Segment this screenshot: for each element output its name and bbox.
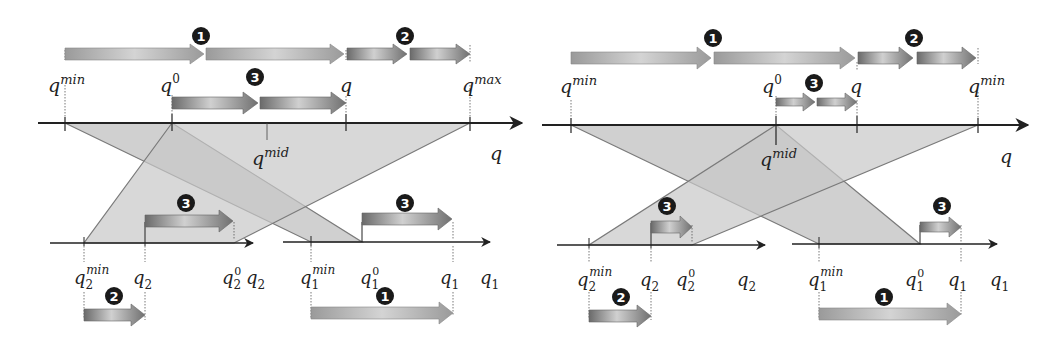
step-marker-3: 3	[246, 68, 264, 86]
svg-text:q1: q1	[990, 269, 1009, 294]
svg-text:q2: q2	[640, 269, 659, 294]
svg-text:3: 3	[250, 70, 259, 85]
svg-text:2: 2	[109, 289, 118, 304]
svg-text:1: 1	[879, 290, 888, 305]
svg-text:1: 1	[708, 31, 717, 46]
svg-text:q: q	[850, 75, 862, 97]
svg-text:q20: q20	[676, 267, 695, 294]
step-marker-2: 2	[612, 288, 630, 306]
range-arrows-row2	[776, 93, 857, 111]
svg-text:q1min: q1min	[300, 263, 335, 292]
svg-text:1: 1	[380, 289, 389, 304]
svg-text:qmin: qmin	[560, 73, 597, 97]
svg-text:q: q	[340, 74, 352, 96]
svg-text:1: 1	[196, 29, 205, 44]
sub-axis-labels: q2min q2 q20 q2 q1min q10 q1 q1	[577, 265, 1009, 294]
svg-text:q2min: q2min	[74, 263, 109, 292]
sub-axis-labels: q2min q2 q20 q2 q1min q10 q1 q1	[74, 263, 499, 292]
svg-text:3: 3	[662, 199, 671, 214]
svg-text:q: q	[1000, 145, 1012, 167]
svg-text:q1: q1	[440, 267, 459, 292]
range-arrows-row1	[65, 44, 470, 64]
svg-text:q10: q10	[360, 265, 379, 292]
main-axis-labels: qmin q0 q qmin qmid q	[560, 73, 1012, 170]
step-marker-3: 3	[396, 194, 414, 212]
svg-text:q2: q2	[133, 267, 152, 292]
right-panel: qmin q0 q qmin qmid q q2min q2 q20 q2 q1…	[542, 29, 1028, 327]
svg-text:q20: q20	[222, 265, 241, 292]
step-marker-1: 1	[704, 29, 722, 47]
range-arrows-row2	[172, 92, 346, 114]
step-marker-2: 2	[105, 287, 123, 305]
svg-text:q1min: q1min	[808, 265, 843, 294]
svg-text:3: 3	[181, 196, 190, 211]
svg-text:qmin: qmin	[48, 72, 85, 96]
step-marker-3: 3	[658, 197, 676, 215]
svg-text:q0: q0	[160, 72, 180, 96]
svg-text:2: 2	[909, 31, 918, 46]
svg-text:q10: q10	[905, 267, 924, 294]
step-marker-3: 3	[805, 74, 823, 92]
range-arrows-row1	[571, 47, 976, 69]
diagram-canvas: qmin q0 q qmax qmid q q2min q2 q20 q2 q1…	[0, 0, 1062, 339]
step-marker-1: 1	[376, 287, 394, 305]
svg-text:q1: q1	[948, 269, 967, 294]
svg-text:q2min: q2min	[577, 265, 612, 294]
step-marker-1: 1	[192, 27, 210, 45]
step-marker-3: 3	[177, 194, 195, 212]
step-marker-1: 1	[875, 288, 893, 306]
svg-text:3: 3	[937, 199, 946, 214]
svg-text:3: 3	[809, 76, 818, 91]
main-axis-labels: qmin q0 q qmax qmid q	[48, 72, 502, 169]
svg-text:q2: q2	[737, 269, 756, 294]
svg-text:q2: q2	[246, 267, 265, 292]
svg-text:q0: q0	[762, 73, 782, 97]
svg-text:qmax: qmax	[462, 72, 502, 96]
step-marker-3: 3	[933, 197, 951, 215]
svg-text:3: 3	[400, 196, 409, 211]
svg-text:q1: q1	[480, 267, 499, 292]
svg-text:2: 2	[616, 290, 625, 305]
svg-text:q: q	[490, 142, 502, 164]
svg-text:qmin: qmin	[968, 73, 1005, 97]
step-marker-2: 2	[396, 27, 414, 45]
svg-text:2: 2	[400, 29, 409, 44]
left-panel: qmin q0 q qmax qmid q q2min q2 q20 q2 q1…	[38, 27, 522, 326]
step-marker-2: 2	[905, 29, 923, 47]
